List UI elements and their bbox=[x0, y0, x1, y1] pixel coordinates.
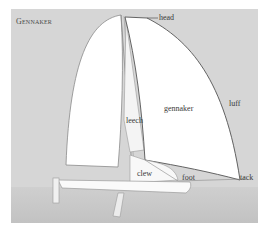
label-luff: luff bbox=[229, 100, 240, 108]
label-gennaker: gennaker bbox=[164, 105, 193, 113]
label-clew: clew bbox=[137, 170, 152, 178]
label-leech: leech bbox=[126, 117, 143, 125]
water bbox=[11, 187, 258, 223]
diagram-title: Gennaker bbox=[16, 17, 52, 26]
label-foot: foot bbox=[182, 174, 195, 182]
rudder bbox=[53, 178, 59, 203]
gennaker-diagram: Gennaker head gennaker luff leech clew f… bbox=[11, 9, 258, 223]
label-head: head bbox=[159, 14, 174, 22]
label-tack: tack bbox=[240, 174, 253, 182]
